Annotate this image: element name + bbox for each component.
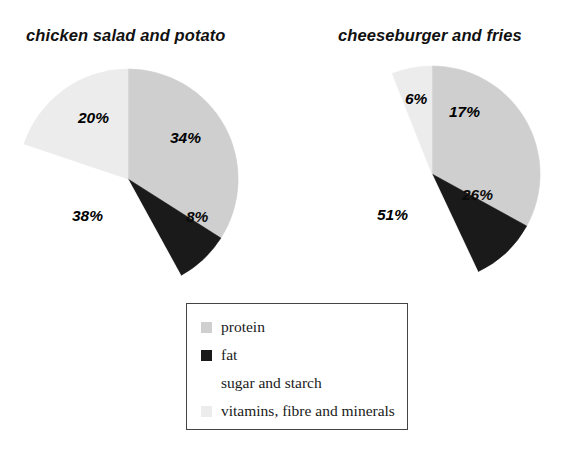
legend-item-fat: fat [201,344,237,366]
pie-svg-1 [0,0,281,290]
pie-label-fat: 26% [462,187,493,203]
pie-label-sugar-and-starch: 38% [72,208,103,224]
pie-label-vitamins-fibre-and-minerals: 6% [405,91,427,107]
pie-chart-chicken-salad-and-potato: 34% 8% 38% 20% [0,0,281,290]
legend-swatch-protein-icon [201,322,212,333]
legend-item-protein: protein [201,316,265,338]
legend-item-sugar-and-starch: sugar and starch [201,372,322,394]
legend-swatch-fat-icon [201,350,212,361]
legend-label-fat: fat [221,346,237,364]
legend-swatch-vitamins-fibre-and-minerals-icon [201,406,212,417]
legend-label-vitamins-fibre-and-minerals: vitamins, fibre and minerals [221,402,395,420]
legend-box: protein fat sugar and starch vitamins, f… [186,303,408,430]
pie-label-protein: 34% [170,130,201,146]
pie-chart-cheeseburger-and-fries: 17% 26% 51% 6% [281,0,562,290]
pie-label-vitamins-fibre-and-minerals: 20% [78,110,109,126]
pie-label-protein: 17% [449,104,480,120]
legend-item-vitamins-fibre-and-minerals: vitamins, fibre and minerals [201,400,395,422]
legend-label-protein: protein [221,318,265,336]
pie-svg-2 [281,0,562,290]
pie-label-fat: 8% [186,209,208,225]
figure-canvas: chicken salad and potato 34% 8% 38% 20% … [0,0,562,451]
pie-label-sugar-and-starch: 51% [377,207,408,223]
legend-label-sugar-and-starch: sugar and starch [221,374,322,392]
legend-swatch-sugar-and-starch-icon [201,378,212,389]
